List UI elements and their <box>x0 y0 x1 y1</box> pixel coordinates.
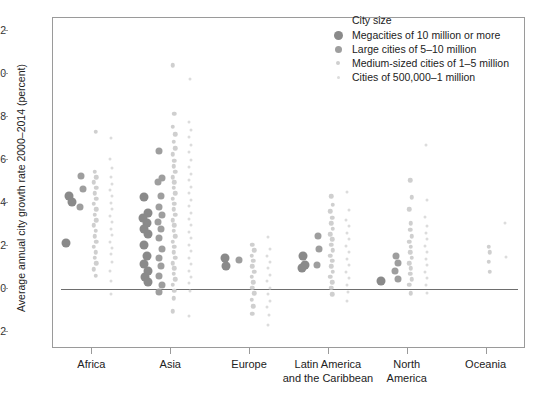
y-axis-title: Average annual city growth rate 2000–201… <box>15 48 27 328</box>
data-point <box>155 254 162 261</box>
data-point <box>144 278 153 287</box>
data-point <box>172 159 177 164</box>
data-point <box>93 274 98 279</box>
data-point <box>346 191 349 194</box>
data-point <box>171 164 176 169</box>
x-tick-label-line: Europe <box>231 358 266 372</box>
data-point <box>187 230 190 233</box>
data-point <box>346 283 349 286</box>
data-point <box>329 194 334 199</box>
data-point <box>158 193 165 200</box>
data-point <box>395 260 402 267</box>
data-point <box>109 201 112 204</box>
data-point <box>267 267 270 270</box>
x-tick-label-line: America <box>387 372 427 386</box>
x-tick-label-north-america: NorthAmerica <box>387 358 427 385</box>
data-point <box>187 205 190 208</box>
data-point <box>93 169 98 174</box>
data-point <box>189 143 192 146</box>
legend-item[interactable]: Medium-sized cities of 1–5 million <box>327 56 509 70</box>
data-point <box>172 289 177 294</box>
data-point <box>154 179 161 186</box>
data-point <box>92 223 97 228</box>
y-tick-mark <box>3 159 8 160</box>
data-point <box>314 262 321 269</box>
data-point <box>487 260 492 265</box>
y-tick-mark <box>3 245 8 246</box>
data-point <box>222 262 231 271</box>
data-point <box>172 202 177 207</box>
data-point <box>172 111 177 116</box>
data-point <box>426 264 429 267</box>
data-point <box>328 232 333 237</box>
data-point <box>267 324 270 327</box>
data-point <box>109 293 112 296</box>
data-point <box>345 219 348 222</box>
legend-item[interactable]: Large cities of 5–10 million <box>327 42 509 56</box>
data-point <box>392 252 399 259</box>
data-point <box>93 250 98 255</box>
x-tick-mark <box>170 348 171 354</box>
data-point <box>156 235 163 242</box>
x-tick-mark <box>91 348 92 354</box>
data-point <box>328 209 333 214</box>
data-point <box>171 309 176 314</box>
legend-marker-icon <box>327 76 349 79</box>
data-point <box>268 313 271 316</box>
data-point <box>252 291 257 296</box>
data-point <box>172 266 177 271</box>
data-point <box>268 299 271 302</box>
legend-item[interactable]: Cities of 500,000–1 million <box>327 70 509 84</box>
data-point <box>111 221 114 224</box>
data-point <box>266 280 269 283</box>
x-tick-label-europe: Europe <box>231 358 266 372</box>
data-point <box>155 148 162 155</box>
data-point <box>331 269 336 274</box>
data-point <box>424 215 427 218</box>
data-point <box>505 255 508 258</box>
data-point <box>267 236 270 239</box>
data-point <box>424 257 427 260</box>
data-point <box>188 269 191 272</box>
data-point <box>173 277 178 282</box>
data-point <box>92 267 97 272</box>
data-point <box>187 282 190 285</box>
data-point <box>189 263 192 266</box>
data-point <box>76 204 83 211</box>
data-point <box>347 251 350 254</box>
data-point <box>92 202 97 207</box>
chart-figure: −2024681012 Average annual city growth r… <box>0 0 541 394</box>
x-tick-mark <box>328 348 329 354</box>
data-point <box>173 255 178 260</box>
data-point <box>93 234 98 239</box>
data-point <box>409 195 414 200</box>
data-point <box>266 306 269 309</box>
legend-marker-icon <box>327 61 349 66</box>
data-point <box>298 251 307 260</box>
data-point <box>409 277 414 282</box>
data-point <box>171 250 176 255</box>
data-point <box>108 269 111 272</box>
data-point <box>171 218 176 223</box>
legend-item[interactable]: Megacities of 10 million or more <box>327 28 509 42</box>
data-point <box>93 191 98 196</box>
data-point <box>316 246 323 253</box>
data-point <box>314 233 321 240</box>
data-point <box>188 166 191 169</box>
data-point <box>345 244 348 247</box>
legend-marker-icon <box>327 31 349 40</box>
data-point <box>328 275 333 280</box>
data-point <box>109 227 112 230</box>
data-point <box>140 193 149 202</box>
data-point <box>236 256 243 263</box>
data-point <box>94 186 99 191</box>
data-point <box>171 152 176 157</box>
legend-label: Large cities of 5–10 million <box>352 43 476 55</box>
data-point <box>346 291 349 294</box>
data-point <box>189 172 192 175</box>
data-point <box>173 234 178 239</box>
data-point <box>171 175 176 180</box>
data-point <box>158 211 165 218</box>
data-point <box>330 292 335 297</box>
data-point <box>93 255 98 260</box>
